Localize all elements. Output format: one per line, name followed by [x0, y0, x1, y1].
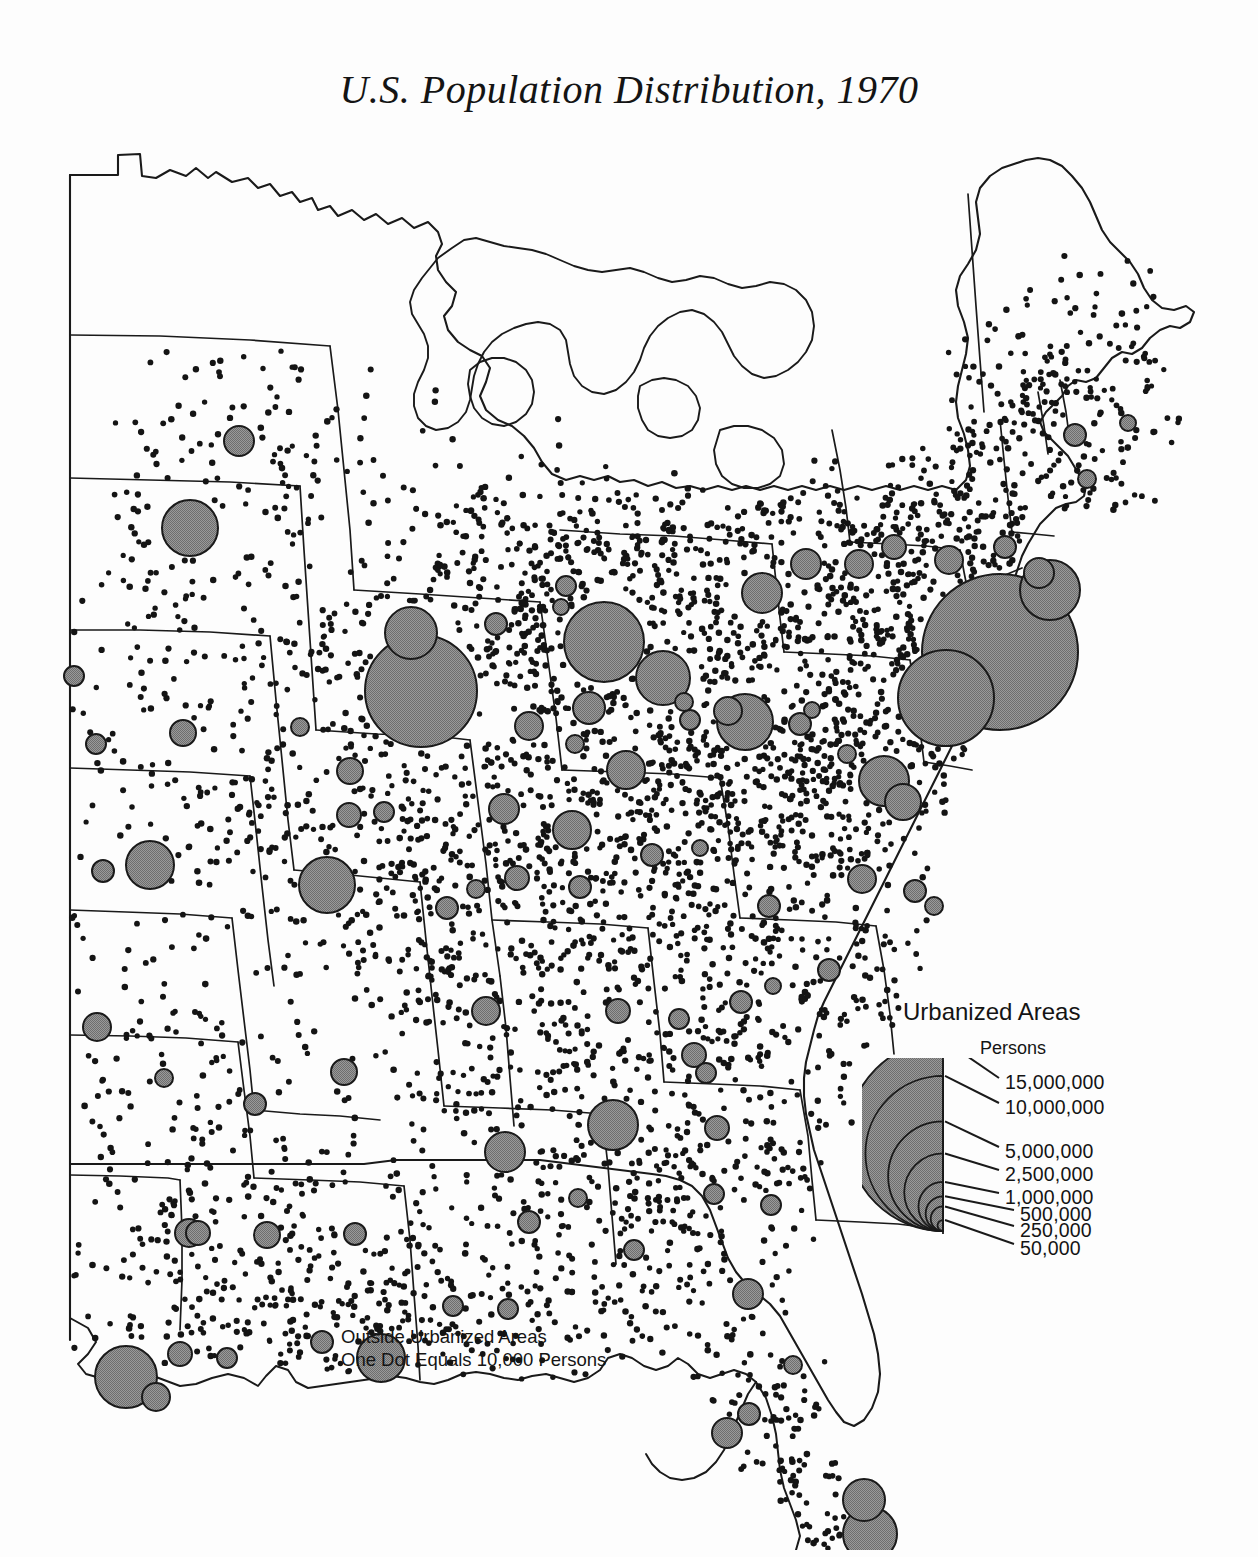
urbanized-area-symbol [607, 751, 645, 789]
urbanized-area-symbol [848, 865, 876, 893]
urbanized-area-symbol [553, 811, 591, 849]
urbanized-area-symbol [791, 549, 821, 579]
urbanized-area-symbol [573, 692, 605, 724]
urbanized-area-symbol [244, 1093, 266, 1115]
urbanized-area-symbol [1064, 424, 1086, 446]
urbanized-area-symbol [733, 1279, 763, 1309]
legend-heading: Urbanized Areas [903, 998, 1080, 1026]
urbanized-area-symbol [765, 978, 781, 994]
legend-label: 50,000 [1020, 1237, 1081, 1260]
urbanized-area-symbol [254, 1222, 280, 1248]
urbanized-area-symbol [224, 426, 254, 456]
legend-leader-line [945, 1182, 999, 1193]
legend-label: 10,000,000 [1005, 1096, 1105, 1119]
urbanized-area-symbol [553, 599, 569, 615]
urbanized-area-symbol [374, 802, 394, 822]
legend-label: 15,000,000 [1005, 1071, 1105, 1094]
urbanized-area-symbol [624, 1240, 644, 1260]
map-page: U.S. Population Distribution, 1970 [0, 0, 1258, 1557]
urbanized-area-symbol [843, 1479, 885, 1521]
urbanized-area-symbol [162, 500, 218, 556]
urbanized-area-symbol [83, 1013, 111, 1041]
legend-leader-line [945, 1121, 999, 1147]
urbanized-area-symbol [845, 550, 873, 578]
urbanized-area-symbol [712, 1418, 742, 1448]
legend-unit-label: Persons [980, 1038, 1046, 1059]
urbanized-area-symbol [885, 784, 921, 820]
urbanized-area-symbol [641, 844, 663, 866]
urbanized-area-symbol [64, 666, 84, 686]
urbanized-area-symbol [898, 650, 994, 746]
urbanized-area-symbol [86, 734, 106, 754]
urbanized-area-symbol [818, 959, 840, 981]
urbanized-area-symbol [344, 1223, 366, 1245]
map-background [0, 130, 1258, 1550]
urbanized-area-symbol [1120, 415, 1136, 431]
urbanized-area-symbol [994, 536, 1016, 558]
urbanized-area-symbol [142, 1383, 170, 1411]
urbanized-area-symbol [485, 1132, 525, 1172]
urbanized-area-symbol [337, 758, 363, 784]
page-title: U.S. Population Distribution, 1970 [0, 66, 1258, 113]
urbanized-area-symbol [704, 1184, 724, 1204]
dot-note-line2: One Dot Equals 10,000 Persons [341, 1349, 606, 1370]
urbanized-area-symbol [705, 1116, 729, 1140]
urbanized-area-symbol [588, 1100, 638, 1150]
urbanized-area-symbol [467, 880, 485, 898]
legend-leader-line [945, 1076, 999, 1103]
urbanized-area-symbol [489, 794, 519, 824]
urbanized-area-symbol [882, 535, 906, 559]
urbanized-area-symbol [291, 718, 309, 736]
urbanized-area-symbol [436, 897, 458, 919]
urbanized-area-symbol [935, 546, 963, 574]
urbanized-area-symbol [126, 841, 174, 889]
urbanized-area-symbol [904, 880, 926, 902]
urbanized-area-symbol [758, 895, 780, 917]
legend-label: 2,500,000 [1005, 1163, 1094, 1186]
urbanized-area-symbol [606, 999, 630, 1023]
urbanized-area-symbol [337, 803, 361, 827]
urbanized-area-symbol [761, 1195, 781, 1215]
urbanized-area-symbol [170, 720, 196, 746]
legend-label: 5,000,000 [1005, 1140, 1094, 1163]
urbanized-area-symbol [485, 613, 507, 635]
dot-density-note: Outside Urbanized Areas One Dot Equals 1… [341, 1325, 606, 1371]
urbanized-area-symbol [696, 1063, 716, 1083]
urbanized-area-symbol [186, 1221, 210, 1245]
urbanized-area-symbol [168, 1342, 192, 1366]
urbanized-area-symbol [556, 576, 576, 596]
legend-leader-line [945, 1196, 1014, 1210]
urbanized-area-symbol [566, 735, 584, 753]
urbanized-area-symbol [1024, 558, 1054, 588]
urbanized-area-symbol [498, 1299, 518, 1319]
map-canvas [0, 130, 1258, 1550]
urbanized-area-symbol [569, 1189, 587, 1207]
urbanized-area-symbol [730, 991, 752, 1013]
urbanized-area-symbol [443, 1296, 463, 1316]
urbanized-area-symbol [675, 693, 693, 711]
urbanized-area-symbol [1078, 470, 1096, 488]
urbanized-area-symbol [331, 1059, 357, 1085]
urbanized-area-symbol [385, 607, 437, 659]
urbanized-area-symbol [925, 897, 943, 915]
legend-leader-line [945, 1153, 999, 1170]
urbanized-area-symbol [838, 745, 856, 763]
urbanized-area-symbol [738, 1403, 760, 1425]
urbanized-area-symbol [564, 602, 644, 682]
urbanized-area-symbol [784, 1356, 802, 1374]
urbanized-area-symbol [155, 1069, 173, 1087]
us-population-map [0, 130, 1258, 1550]
urbanized-area-symbol [299, 857, 355, 913]
urbanized-area-symbol [518, 1211, 540, 1233]
urbanized-area-symbol [505, 866, 529, 890]
urbanized-area-symbol [714, 697, 742, 725]
urbanized-area-symbol [692, 840, 708, 856]
urbanized-area-symbol [472, 997, 500, 1025]
legend-leader-line [945, 1058, 999, 1078]
urbanized-area-symbol [311, 1331, 333, 1353]
urbanized-area-symbol [92, 860, 114, 882]
urbanized-area-symbol [217, 1348, 237, 1368]
urbanized-area-symbol [680, 710, 700, 730]
dot-note-line1: Outside Urbanized Areas [341, 1326, 547, 1347]
urbanized-area-symbol [569, 876, 591, 898]
